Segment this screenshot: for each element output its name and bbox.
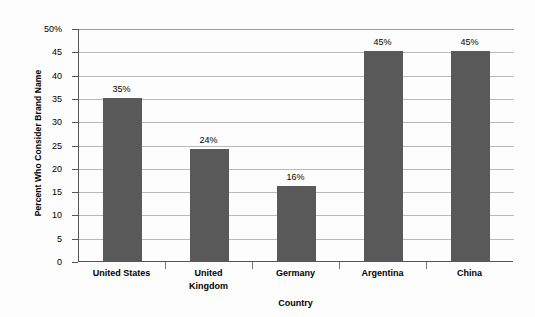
y-tick-label: 15	[0, 187, 62, 197]
gridline	[79, 76, 514, 77]
plot-area	[78, 29, 513, 262]
bar-chart: Percent Who Consider Brand Name 50%45403…	[0, 0, 535, 317]
gridline	[79, 29, 514, 30]
y-tick-label: 50%	[0, 24, 62, 34]
bar	[277, 186, 316, 261]
bar	[190, 149, 229, 261]
y-tick-label: 10	[0, 210, 62, 220]
bar-value-label: 45%	[348, 37, 418, 47]
bar	[364, 51, 403, 261]
bar-value-label: 45%	[435, 37, 505, 47]
y-tick-mark	[72, 262, 78, 263]
bar-value-label: 24%	[174, 135, 244, 145]
x-category-label: China	[415, 267, 525, 280]
bar-value-label: 35%	[87, 84, 157, 94]
gridline	[79, 99, 514, 100]
gridline	[79, 169, 514, 170]
y-tick-label: 25	[0, 141, 62, 151]
y-tick-label: 30	[0, 117, 62, 127]
y-tick-label: 0	[0, 257, 62, 267]
y-tick-label: 35	[0, 94, 62, 104]
y-tick-label: 40	[0, 71, 62, 81]
gridline	[79, 52, 514, 53]
bar	[103, 98, 142, 261]
bar	[451, 51, 490, 261]
x-axis-title: Country	[78, 298, 513, 308]
y-tick-label: 45	[0, 47, 62, 57]
bar-value-label: 16%	[261, 172, 331, 182]
y-tick-label: 5	[0, 234, 62, 244]
y-tick-label: 20	[0, 164, 62, 174]
gridline	[79, 122, 514, 123]
gridline	[79, 146, 514, 147]
